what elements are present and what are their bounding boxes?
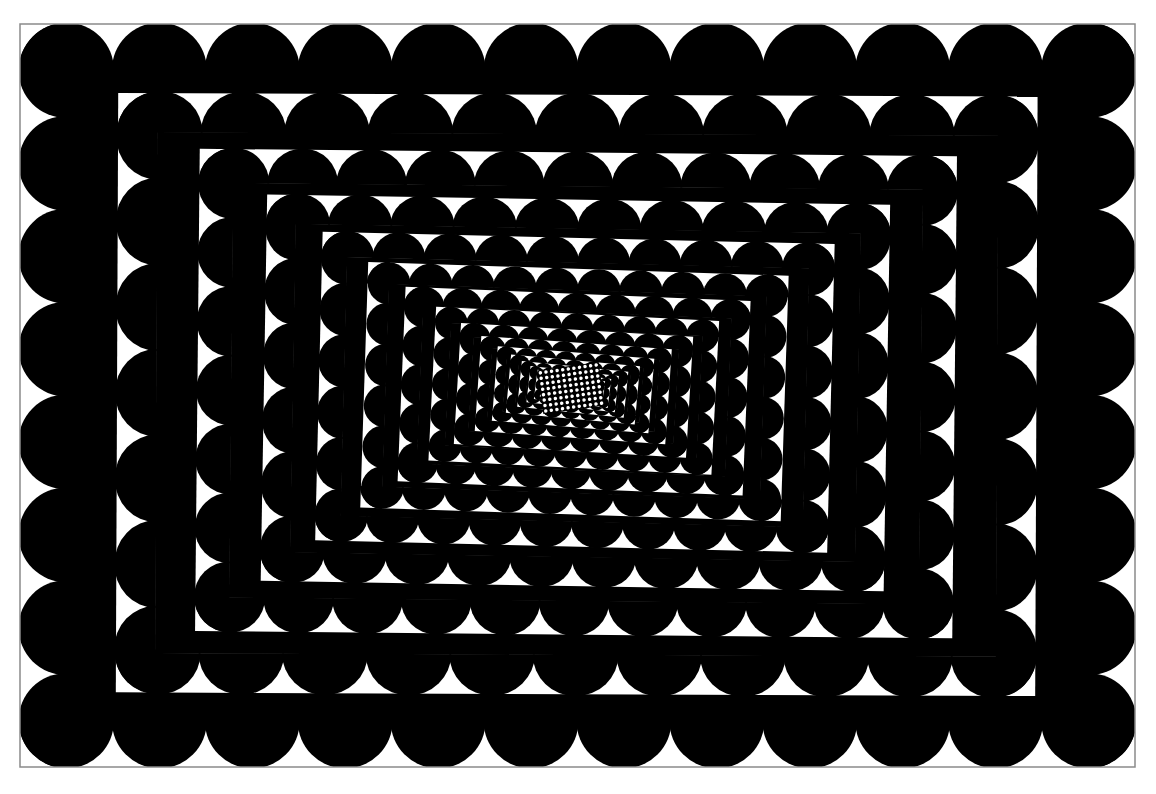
tunnel-core-dot-grid	[537, 362, 605, 414]
op-art-canvas: Op-art tunnel of semicircles	[0, 0, 1156, 794]
tunnel-illusion	[0, 0, 1156, 794]
